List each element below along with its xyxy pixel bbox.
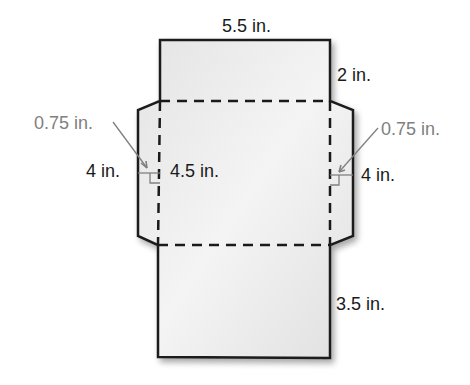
top-flap-height-label: 2 in. [337, 66, 371, 84]
left-flap-length-label: 4 in. [86, 162, 120, 180]
net-outline [138, 40, 353, 358]
bottom-flap-height-label: 3.5 in. [336, 295, 385, 313]
top-width-label: 5.5 in. [222, 17, 271, 35]
left-flap-depth-label: 0.75 in. [34, 114, 93, 132]
right-flap-depth-label: 0.75 in. [381, 120, 440, 138]
envelope-net [0, 0, 470, 385]
right-flap-length-label: 4 in. [361, 166, 395, 184]
center-height-label: 4.5 in. [170, 162, 219, 180]
